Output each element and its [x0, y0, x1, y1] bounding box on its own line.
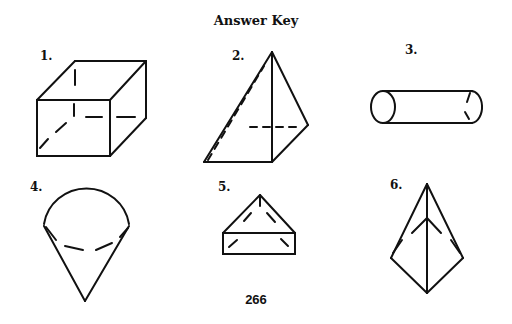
figures-canvas	[0, 0, 512, 324]
triangular-pyramid-figure	[391, 184, 463, 293]
pyramid-figure	[204, 52, 308, 162]
cone-figure	[44, 188, 129, 301]
cylinder-figure	[371, 91, 482, 123]
triangular-prism-figure	[223, 195, 295, 254]
cube-figure	[37, 61, 146, 156]
page-number: 266	[0, 292, 512, 307]
